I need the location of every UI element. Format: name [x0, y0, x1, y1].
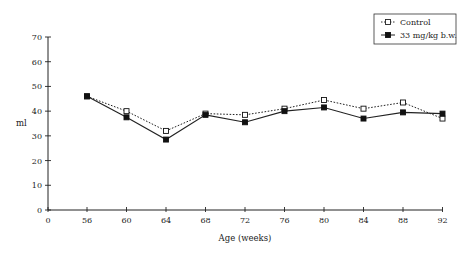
x-tick-label: 72: [240, 216, 250, 225]
filled-square-marker: [361, 116, 366, 121]
y-axis: 010203040506070: [32, 33, 51, 215]
x-tick-label: 0: [45, 216, 50, 225]
open-square-marker-icon: [386, 20, 391, 25]
filled-square-marker: [243, 120, 248, 125]
open-square-marker: [322, 98, 327, 103]
x-tick-label: 80: [319, 216, 329, 225]
y-tick-label: 70: [32, 33, 42, 42]
open-square-marker: [164, 128, 169, 133]
y-tick-label: 20: [32, 157, 42, 166]
y-tick-label: 10: [32, 181, 42, 190]
y-tick-label: 30: [32, 132, 42, 141]
x-tick-label: 60: [121, 216, 131, 225]
filled-square-marker: [322, 105, 327, 110]
x-tick-label: 88: [398, 216, 408, 225]
line-chart: 010203040506070 056606468727680848892 ml…: [0, 0, 473, 258]
filled-square-marker: [203, 112, 208, 117]
series-layer: [85, 94, 446, 142]
series-treated: [85, 94, 446, 142]
x-tick-label: 56: [82, 216, 92, 225]
open-square-marker: [440, 116, 445, 121]
filled-square-marker: [440, 111, 445, 116]
filled-square-marker: [85, 94, 90, 99]
x-tick-label: 92: [437, 216, 447, 225]
x-tick-label: 64: [161, 216, 171, 225]
x-tick-label: 84: [358, 216, 368, 225]
filled-square-marker: [124, 115, 129, 120]
x-tick-label: 76: [279, 216, 289, 225]
y-tick-label: 60: [32, 58, 42, 67]
filled-square-marker-icon: [386, 33, 391, 38]
legend-label: Control: [400, 18, 431, 27]
open-square-marker: [243, 112, 248, 117]
y-tick-label: 0: [37, 206, 42, 215]
series-control: [85, 94, 446, 134]
legend: Control 33 mg/kg b.w.: [374, 14, 457, 44]
legend-label: 33 mg/kg b.w.: [400, 31, 457, 40]
series-line: [87, 96, 443, 139]
y-tick-label: 40: [32, 107, 42, 116]
open-square-marker: [401, 100, 406, 105]
y-axis-title: ml: [16, 118, 27, 128]
open-square-marker: [361, 106, 366, 111]
filled-square-marker: [164, 137, 169, 142]
y-tick-label: 50: [32, 82, 42, 91]
x-axis-title: Age (weeks): [218, 233, 272, 243]
x-tick-label: 68: [200, 216, 210, 225]
filled-square-marker: [282, 109, 287, 114]
filled-square-marker: [401, 110, 406, 115]
x-axis: 056606468727680848892: [45, 207, 447, 225]
open-square-marker: [124, 109, 129, 114]
